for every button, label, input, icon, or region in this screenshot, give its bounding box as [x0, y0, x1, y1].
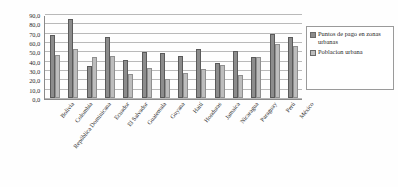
bar-group	[46, 16, 64, 98]
gridline	[45, 98, 302, 99]
bar	[275, 44, 280, 98]
legend-label: Poblacion urbana	[318, 48, 363, 56]
bar-group	[101, 16, 119, 98]
bar-group	[83, 16, 101, 98]
y-axis-tick-label: 50,0	[29, 50, 40, 56]
bar	[256, 57, 261, 98]
bar-group	[229, 16, 247, 98]
bar	[55, 55, 60, 98]
bar	[201, 69, 206, 98]
y-axis-tick-label: 70,0	[29, 31, 40, 37]
y-axis-tick-label: 30,0	[29, 69, 40, 75]
gridline	[45, 14, 302, 15]
bar-group	[284, 16, 302, 98]
bar-group	[156, 16, 174, 98]
y-axis-tick-label: 90,0	[29, 13, 40, 19]
y-axis-tick-label: 20,0	[29, 78, 40, 84]
y-axis-tick-label: 10,0	[29, 87, 40, 93]
bar-groups	[46, 16, 302, 98]
bar	[147, 68, 152, 98]
legend-entry: Puntos de pago en zonas urbanas	[310, 30, 391, 46]
bar-group	[137, 16, 155, 98]
legend-label: Puntos de pago en zonas urbanas	[318, 30, 391, 46]
y-axis: 90,080,070,060,050,040,030,020,010,00,0	[2, 10, 42, 106]
bar-group	[265, 16, 283, 98]
legend-swatch-icon	[310, 50, 316, 56]
y-axis-tick-label: 60,0	[29, 41, 40, 47]
bar	[110, 56, 115, 98]
bar-chart: 90,080,070,060,050,040,030,020,010,00,0 …	[0, 0, 398, 187]
bar	[73, 49, 78, 98]
bar-group	[211, 16, 229, 98]
y-axis-tick-label: 0,0	[32, 97, 40, 103]
bar-group	[119, 16, 137, 98]
plot-area	[44, 16, 302, 100]
bar	[128, 74, 133, 98]
bar	[92, 57, 97, 98]
y-axis-tick-label: 40,0	[29, 59, 40, 65]
bar-group	[174, 16, 192, 98]
bar	[183, 73, 188, 98]
legend-entry: Poblacion urbana	[310, 48, 391, 56]
bar-group	[192, 16, 210, 98]
bar	[165, 79, 170, 98]
legend-swatch-icon	[310, 32, 316, 38]
y-axis-tick-label: 80,0	[29, 22, 40, 28]
chart-legend: Puntos de pago en zonas urbanasPoblacion…	[306, 26, 394, 90]
bar-group	[247, 16, 265, 98]
x-axis-labels: BoliviaColombiaRepública DominicanaEcuad…	[44, 101, 302, 181]
bar	[293, 46, 298, 98]
bar	[220, 65, 225, 98]
bar-group	[64, 16, 82, 98]
plot-area-wrapper	[44, 16, 302, 100]
bar	[238, 75, 243, 98]
